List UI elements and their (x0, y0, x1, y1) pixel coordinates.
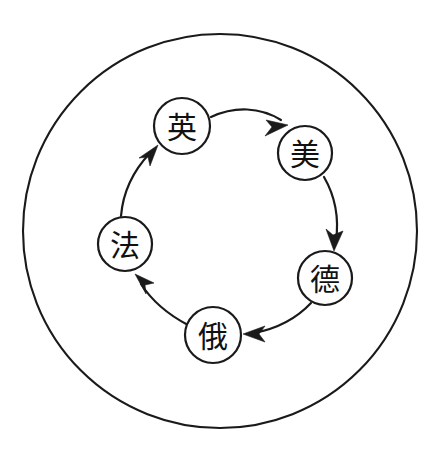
node-russia[interactable]: 俄 (185, 307, 241, 363)
node-label-uk: 英 (167, 110, 197, 145)
arrowhead-uk-to-usa (265, 120, 288, 136)
edge-russia-to-france (135, 274, 188, 325)
node-label-usa: 美 (290, 137, 320, 172)
outer-circle (23, 34, 417, 428)
arrowhead-russia-to-france (135, 274, 154, 294)
edge-germany-to-russia (243, 303, 311, 342)
edge-path-uk-to-usa (211, 109, 281, 120)
edge-usa-to-germany (324, 177, 343, 251)
node-label-germany: 德 (310, 262, 340, 297)
node-label-russia: 俄 (198, 319, 228, 354)
arrowhead-germany-to-russia (243, 326, 265, 342)
node-germany[interactable]: 德 (298, 251, 352, 305)
node-uk[interactable]: 英 (154, 98, 210, 154)
node-usa[interactable]: 美 (278, 126, 332, 180)
node-france[interactable]: 法 (98, 217, 152, 271)
diagram-canvas: 英 美 德 俄 法 (0, 0, 441, 456)
cycle-diagram: 英 美 德 俄 法 (0, 0, 441, 456)
edge-path-usa-to-germany (324, 177, 337, 241)
edge-path-russia-to-france (141, 284, 188, 325)
node-label-france: 法 (110, 228, 140, 263)
edge-france-to-uk (121, 145, 158, 216)
edge-uk-to-usa (211, 109, 288, 136)
arrowhead-usa-to-germany (326, 229, 343, 251)
edge-path-france-to-uk (121, 153, 150, 216)
